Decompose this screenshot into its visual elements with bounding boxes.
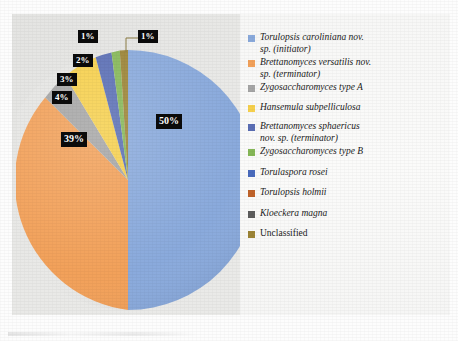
legend-item-torulopsis-caroliniana[interactable]: Torulopsis caroliniana nov. sp. (initiat… bbox=[248, 32, 454, 55]
figure: 50% 39% 4% 3% 2% 1% 1% Torulopsis caroli… bbox=[0, 0, 458, 341]
leader-line-unclassified bbox=[126, 38, 138, 52]
data-label-50: 50% bbox=[156, 114, 182, 129]
legend-item-brettanomyces-sphaericus[interactable]: Brettanomyces sphaericus nov. sp. (termi… bbox=[248, 121, 454, 144]
plot-area: 50% 39% 4% 3% 2% 1% 1% bbox=[12, 14, 240, 315]
legend: Torulopsis caroliniana nov. sp. (initiat… bbox=[248, 32, 454, 242]
legend-swatch-icon bbox=[248, 60, 255, 67]
chart-panel: 50% 39% 4% 3% 2% 1% 1% Torulopsis caroli… bbox=[12, 14, 450, 315]
legend-item-unclassified[interactable]: Unclassified bbox=[248, 228, 454, 240]
legend-label: Brettanomyces versatilis nov. bbox=[260, 57, 371, 69]
data-label-4: 4% bbox=[52, 91, 72, 104]
data-label-2: 2% bbox=[73, 54, 93, 67]
legend-item-brettanomyces-versatilis[interactable]: Brettanomyces versatilis nov. sp. (termi… bbox=[248, 57, 454, 80]
legend-swatch-icon bbox=[248, 124, 255, 131]
legend-item-zygosaccharomyces-a[interactable]: Zygosaccharomyces type A bbox=[248, 82, 454, 94]
page-artifact bbox=[8, 332, 198, 336]
pie-chart: 50% 39% 4% 3% 2% 1% 1% bbox=[16, 28, 240, 312]
legend-label: Torulopsis caroliniana nov. bbox=[260, 32, 364, 44]
legend-label: Brettanomyces sphaericus bbox=[260, 121, 360, 133]
legend-label-line2: sp. (terminator) bbox=[260, 69, 371, 81]
legend-swatch-icon bbox=[248, 170, 255, 177]
legend-swatch-icon bbox=[248, 231, 255, 238]
legend-swatch-icon bbox=[248, 85, 255, 92]
data-label-1-right: 1% bbox=[138, 30, 158, 43]
data-label-1-left: 1% bbox=[78, 30, 98, 43]
legend-swatch-icon bbox=[248, 149, 255, 156]
legend-swatch-icon bbox=[248, 35, 255, 42]
legend-label: Kloeckera magna bbox=[260, 208, 327, 220]
legend-label: Torulaspora rosei bbox=[260, 167, 328, 179]
legend-label: Zygosaccharomyces type B bbox=[260, 146, 363, 158]
data-label-39: 39% bbox=[61, 132, 87, 147]
legend-label-line2: sp. (initiator) bbox=[260, 44, 364, 56]
legend-item-zygosaccharomyces-b[interactable]: Zygosaccharomyces type B bbox=[248, 146, 454, 158]
pie-svg bbox=[16, 28, 240, 312]
legend-label: Hansemula subpelliculosa bbox=[260, 102, 361, 114]
legend-label: Zygosaccharomyces type A bbox=[260, 82, 363, 94]
legend-label: Torulopsis holmii bbox=[260, 187, 326, 199]
legend-item-torulaspora-rosei[interactable]: Torulaspora rosei bbox=[248, 167, 454, 179]
legend-item-hansemula-subpelliculosa[interactable]: Hansemula subpelliculosa bbox=[248, 102, 454, 114]
legend-label-line2: nov. sp. (terminator) bbox=[260, 133, 360, 145]
legend-label: Unclassified bbox=[260, 228, 308, 240]
legend-swatch-icon bbox=[248, 190, 255, 197]
legend-item-torulopsis-holmii[interactable]: Torulopsis holmii bbox=[248, 187, 454, 199]
data-label-3: 3% bbox=[57, 73, 77, 86]
legend-swatch-icon bbox=[248, 211, 255, 218]
legend-swatch-icon bbox=[248, 105, 255, 112]
legend-item-kloeckera-magna[interactable]: Kloeckera magna bbox=[248, 208, 454, 220]
